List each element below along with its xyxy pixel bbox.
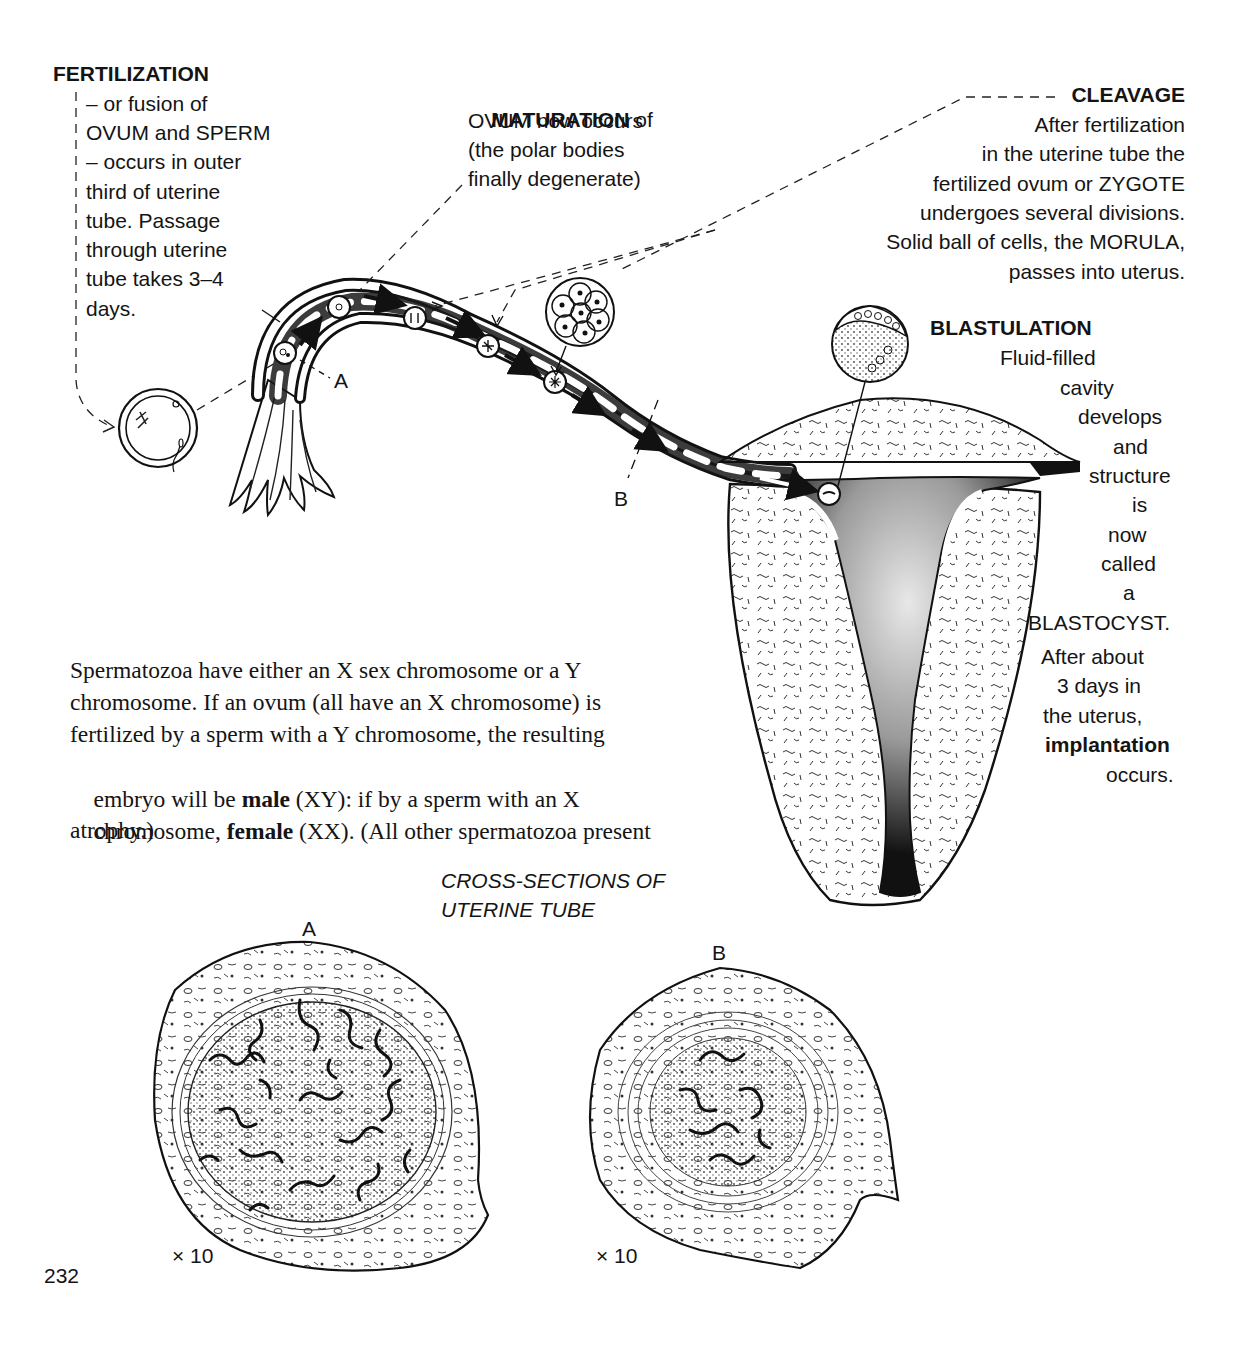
paragraph-line: atrophy.) [70, 814, 154, 847]
paragraph-line: chromosome. If an ovum (all have an X ch… [70, 686, 601, 719]
blastulation-line: structure [1089, 461, 1171, 490]
blastulation-line: and [1113, 432, 1148, 461]
blastulation-line: called [1101, 549, 1156, 578]
blastulation-line: the uterus, [1043, 701, 1142, 730]
blastulation-line: cavity [1060, 373, 1114, 402]
section-a-marker: A [334, 366, 348, 395]
fertilization-line: days. [86, 294, 136, 323]
maturation-line: OVUM now occurs [468, 106, 643, 135]
paragraph-text: (XX). (All other spermatozoa present [293, 818, 651, 844]
female-term: female [227, 818, 294, 844]
cleavage-line: After fertilization [1034, 110, 1185, 139]
fertilization-line: – occurs in outer [86, 147, 241, 176]
fertilization-line: through uterine [86, 235, 227, 264]
blastulation-line: now [1108, 520, 1147, 549]
cross-section-b [590, 968, 898, 1268]
blastulation-line: develops [1078, 402, 1162, 431]
blastulation-line: BLASTOCYST. [1028, 608, 1170, 637]
cleavage-line: in the uterine tube the [982, 139, 1185, 168]
fertilization-line: tube takes 3–4 [86, 264, 224, 293]
cross-sections-title: UTERINE TUBE [441, 895, 595, 924]
cleavage-line: fertilized ovum or ZYGOTE [933, 169, 1185, 198]
blastulation-line: 3 days in [1057, 671, 1141, 700]
ovum-with-sperm [119, 389, 197, 472]
implantation-term: implantation [1045, 730, 1170, 759]
fertilization-line: OVUM and SPERM [86, 118, 270, 147]
uterine-tube [230, 285, 790, 515]
blastulation-line: After about [1041, 642, 1144, 671]
blastulation-line: Fluid-filled [1000, 343, 1096, 372]
page-number: 232 [44, 1261, 79, 1290]
paragraph-line: Spermatozoa have either an X sex chromos… [70, 654, 581, 687]
blastulation-line: is [1132, 490, 1147, 519]
fertilization-heading: FERTILIZATION [53, 62, 209, 86]
cleavage-line: Solid ball of cells, the MORULA, [886, 227, 1185, 256]
cross-section-a-label: A [302, 914, 316, 943]
cross-sections-title: CROSS-SECTIONS OF [441, 866, 665, 895]
cross-section-a [154, 942, 488, 1271]
fertilization-line: – or fusion of [86, 89, 207, 118]
magnification-a: × 10 [172, 1241, 213, 1270]
maturation-line: finally degenerate) [468, 164, 641, 193]
cleavage-line: passes into uterus. [1009, 257, 1185, 286]
blastulation-line: a [1123, 578, 1135, 607]
section-b-marker: B [614, 484, 628, 513]
magnification-b: × 10 [596, 1241, 637, 1270]
blastulation-final: occurs. [1106, 760, 1174, 789]
cleavage-heading: CLEAVAGE [1071, 83, 1185, 107]
cross-section-b-label: B [712, 938, 726, 967]
maturation-line: (the polar bodies [468, 135, 624, 164]
fertilization-line: third of uterine [86, 177, 220, 206]
cleavage-line: undergoes several divisions. [920, 198, 1185, 227]
paragraph-line: fertilized by a sperm with a Y chromosom… [70, 718, 605, 751]
fertilization-line: tube. Passage [86, 206, 220, 235]
blastulation-heading: BLASTULATION [930, 316, 1092, 340]
